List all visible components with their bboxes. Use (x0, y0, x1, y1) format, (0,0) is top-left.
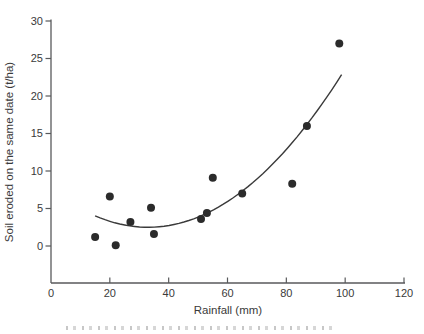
x-tick-label: 20 (104, 287, 116, 299)
x-tick-label: 0 (48, 287, 54, 299)
x-tick-label: 80 (280, 287, 292, 299)
data-point (209, 174, 217, 182)
x-axis-title: Rainfall (mm) (194, 304, 263, 316)
trend-curve (95, 75, 342, 228)
scatter-chart-figure: Rainfall (mm) Soil eroded on the same da… (0, 0, 424, 334)
data-point (112, 241, 120, 249)
y-tick-label: 20 (31, 90, 43, 102)
y-tick-label: 30 (31, 15, 43, 27)
y-tick-label: 10 (31, 165, 43, 177)
cropped-caption-fragment (66, 326, 332, 330)
data-point (126, 218, 134, 226)
data-point (91, 233, 99, 241)
data-point (147, 204, 155, 212)
y-tick-label: 25 (31, 52, 43, 64)
data-point (335, 40, 343, 48)
data-point (106, 193, 114, 201)
data-point (238, 190, 246, 198)
x-tick-label: 60 (221, 287, 233, 299)
x-tick-label: 120 (395, 287, 413, 299)
y-tick-label: 0 (37, 240, 43, 252)
data-point (288, 180, 296, 188)
y-axis-title: Soil eroded on the same date (t/ha) (3, 62, 15, 242)
x-tick-label: 40 (163, 287, 175, 299)
data-point (303, 122, 311, 130)
y-tick-label: 5 (37, 202, 43, 214)
data-point (197, 215, 205, 223)
data-point (150, 230, 158, 238)
y-tick-label: 15 (31, 127, 43, 139)
x-tick-label: 100 (336, 287, 354, 299)
data-point (203, 209, 211, 217)
scatter-chart: Rainfall (mm) Soil eroded on the same da… (0, 0, 424, 334)
